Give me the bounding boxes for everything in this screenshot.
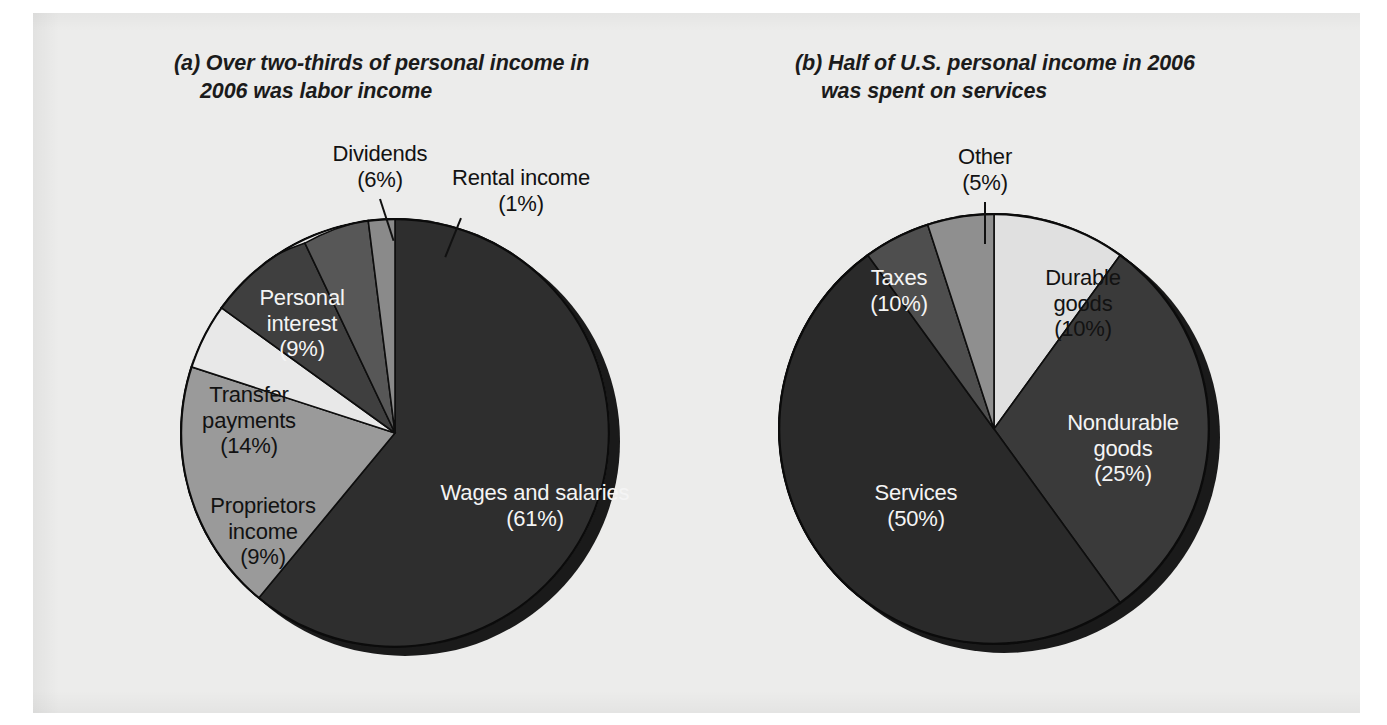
- pie-a-label-dividends-line1: Dividends: [310, 141, 450, 167]
- pie-a-label-dividends: Dividends (6%): [310, 141, 450, 192]
- pie-a-label-proprietors-income: Proprietors income (9%): [188, 493, 338, 570]
- pie-b-label-durable-goods-line3: (10%): [1008, 316, 1158, 342]
- pie-a-label-wages-and-salaries-line2: (61%): [410, 506, 660, 532]
- pie-b-label-taxes: Taxes (10%): [839, 265, 959, 316]
- pie-a-label-rental-income-line1: Rental income: [431, 165, 611, 191]
- pie-a-label-wages-and-salaries-line1: Wages and salaries: [410, 480, 660, 506]
- pie-a-label-personal-interest-line2: interest: [237, 311, 367, 337]
- pie-a-label-rental-income-line2: (1%): [431, 191, 611, 217]
- pie-a-label-personal-interest-line3: (9%): [237, 336, 367, 362]
- pie-a-label-transfer-payments-line2: payments: [179, 408, 319, 434]
- chart-title-a-line1: Over two-thirds of personal income in: [206, 51, 589, 75]
- chart-title-b-line1: Half of U.S. personal income in 2006: [828, 51, 1195, 75]
- pie-a-label-proprietors-income-line2: income: [188, 519, 338, 545]
- pie-a-label-wages-and-salaries: Wages and salaries (61%): [410, 480, 660, 531]
- pie-a-label-personal-interest-line1: Personal: [237, 285, 367, 311]
- pie-b-label-durable-goods-line1: Durable: [1008, 265, 1158, 291]
- pie-b-label-nondurable-goods-line2: goods: [1033, 436, 1213, 462]
- pie-a-label-personal-interest: Personal interest (9%): [237, 285, 367, 362]
- chart-title-a-line2: 2006 was labor income: [200, 77, 604, 105]
- chart-title-b: (b) Half of U.S. personal income in 2006…: [795, 49, 1225, 105]
- pie-a-label-dividends-line2: (6%): [310, 167, 450, 193]
- pie-b-label-taxes-line2: (10%): [839, 291, 959, 317]
- pie-a-label-proprietors-income-line1: Proprietors: [188, 493, 338, 519]
- pie-a-label-transfer-payments-line3: (14%): [179, 433, 319, 459]
- pie-b-label-nondurable-goods-line1: Nondurable: [1033, 410, 1213, 436]
- pie-a-label-rental-income: Rental income (1%): [431, 165, 611, 216]
- pie-b-label-nondurable-goods-line3: (25%): [1033, 461, 1213, 487]
- pie-a-label-transfer-payments-line1: Transfer: [179, 382, 319, 408]
- pie-b-label-other: Other (5%): [925, 144, 1045, 195]
- pie-b-label-services-line2: (50%): [836, 506, 996, 532]
- chart-title-b-line2: was spent on services: [821, 77, 1225, 105]
- panel-label-b: (b): [795, 51, 828, 75]
- pie-b-leader-other: [984, 202, 986, 244]
- chart-panel-a: (a) Over two-thirds of personal income i…: [33, 13, 693, 713]
- chart-panel-b: (b) Half of U.S. personal income in 2006…: [693, 13, 1360, 713]
- panel-label-a: (a): [174, 51, 206, 75]
- pie-b-label-other-line2: (5%): [925, 170, 1045, 196]
- pie-b-label-other-line1: Other: [925, 144, 1045, 170]
- pie-a-label-proprietors-income-line3: (9%): [188, 544, 338, 570]
- pie-b-label-taxes-line1: Taxes: [839, 265, 959, 291]
- pie-b-label-durable-goods-line2: goods: [1008, 291, 1158, 317]
- figure-container: (a) Over two-thirds of personal income i…: [33, 13, 1360, 713]
- pie-b-label-services: Services (50%): [836, 480, 996, 531]
- pie-b-label-nondurable-goods: Nondurable goods (25%): [1033, 410, 1213, 487]
- pie-b-label-durable-goods: Durable goods (10%): [1008, 265, 1158, 342]
- chart-title-a: (a) Over two-thirds of personal income i…: [174, 49, 604, 105]
- pie-b-label-services-line1: Services: [836, 480, 996, 506]
- pie-a-label-transfer-payments: Transfer payments (14%): [179, 382, 319, 459]
